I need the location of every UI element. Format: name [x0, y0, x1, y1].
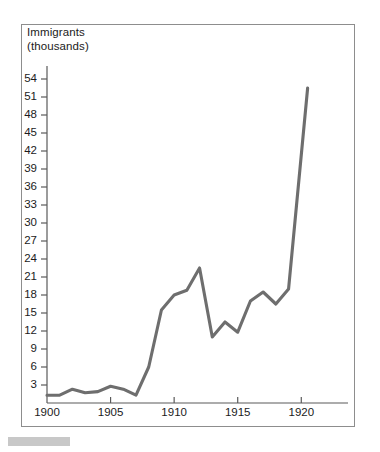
y-axis-tick-label: 18: [11, 288, 37, 300]
x-axis-tick-label: 1920: [281, 406, 321, 418]
y-axis-tick-label: 3: [11, 378, 37, 390]
y-axis-tick-label: 42: [11, 144, 37, 156]
data-series-line: [47, 88, 308, 395]
y-axis-tick-label: 21: [11, 270, 37, 282]
y-axis-tick-label: 9: [11, 342, 37, 354]
y-axis-tick-label: 27: [11, 234, 37, 246]
y-axis-tick-label: 15: [11, 306, 37, 318]
x-axis-tick-label: 1905: [91, 406, 131, 418]
scan-artifact-bar: [8, 437, 70, 446]
y-axis-tick-label: 24: [11, 252, 37, 264]
axis-ticks: [41, 79, 301, 403]
y-axis-tick-label: 48: [11, 108, 37, 120]
y-axis-tick-label: 54: [11, 72, 37, 84]
line-chart-plot: [0, 0, 380, 452]
y-axis-tick-label: 30: [11, 216, 37, 228]
y-axis-tick-label: 36: [11, 180, 37, 192]
x-axis-tick-label: 1900: [27, 406, 67, 418]
x-axis-tick-label: 1915: [218, 406, 258, 418]
x-axis-tick-label: 1910: [154, 406, 194, 418]
y-axis-tick-label: 51: [11, 90, 37, 102]
y-axis-tick-label: 12: [11, 324, 37, 336]
y-axis-tick-label: 45: [11, 126, 37, 138]
y-axis-tick-label: 6: [11, 360, 37, 372]
y-axis-tick-label: 33: [11, 198, 37, 210]
y-axis-tick-label: 39: [11, 162, 37, 174]
